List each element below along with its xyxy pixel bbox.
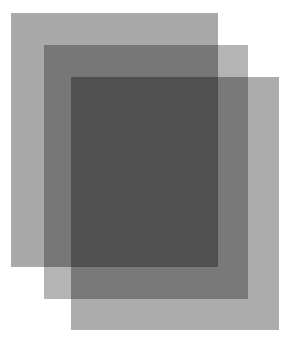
front-sheet xyxy=(71,77,279,330)
overlapping-sheets-figure xyxy=(0,0,292,340)
